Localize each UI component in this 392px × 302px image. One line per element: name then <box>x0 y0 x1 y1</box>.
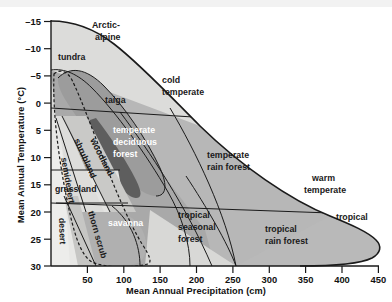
x-tick-label: 450 <box>371 274 387 285</box>
y-tick-label: –15 <box>25 16 41 27</box>
svg-text:Arctic-: Arctic- <box>92 20 120 30</box>
svg-text:temperate: temperate <box>162 87 204 97</box>
svg-text:warm: warm <box>311 173 335 183</box>
biome-plot-area: –15 –10 –5 0 5 10 15 20 25 30 50 100 150… <box>0 0 392 302</box>
biome-label-taiga: taiga <box>105 95 126 105</box>
x-tick-label: 250 <box>225 274 241 285</box>
y-axis-title: Mean Annual Temperature (°C) <box>16 55 26 255</box>
climate-zone-label-tropical: tropical <box>336 212 368 222</box>
svg-text:temperate: temperate <box>113 125 155 135</box>
whittaker-biome-diagram: –15 –10 –5 0 5 10 15 20 25 30 50 100 150… <box>0 0 392 302</box>
y-tick-label: 30 <box>31 261 41 272</box>
x-tick-label: 400 <box>334 274 350 285</box>
biome-label-tundra: tundra <box>58 52 85 62</box>
svg-text:alpine: alpine <box>95 32 121 42</box>
svg-text:deciduous: deciduous <box>113 137 157 147</box>
x-axis-title: Mean Annual Precipitation (cm) <box>0 286 392 296</box>
climate-zone-label-cold-temperate: cold temperate <box>162 75 204 97</box>
y-tick-label: 5 <box>36 125 41 136</box>
svg-text:rain forest: rain forest <box>207 162 250 172</box>
svg-text:rain forest: rain forest <box>265 236 308 246</box>
svg-text:temperate: temperate <box>207 150 249 160</box>
svg-text:forest: forest <box>178 234 203 244</box>
x-axis-tick-labels: 50 100 150 200 250 300 350 400 450 <box>82 274 386 285</box>
y-tick-label: 0 <box>36 98 41 109</box>
biome-label-savanna: savanna <box>108 218 143 228</box>
biome-label-desert: desert <box>57 218 68 245</box>
y-tick-label: –5 <box>31 70 41 81</box>
y-tick-label: 15 <box>31 179 41 190</box>
x-tick-label: 150 <box>152 274 168 285</box>
climate-zone-label-arctic-alpine: Arctic- alpine <box>92 20 121 42</box>
svg-text:cold: cold <box>162 75 180 85</box>
svg-text:tropical: tropical <box>178 210 210 220</box>
svg-text:forest: forest <box>113 149 138 159</box>
x-axis-ticks <box>87 266 378 273</box>
x-tick-label: 350 <box>298 274 314 285</box>
y-tick-label: –10 <box>25 43 41 54</box>
y-tick-label: 25 <box>31 234 41 245</box>
climate-zone-label-warm-temperate: warm temperate <box>304 173 346 195</box>
x-tick-label: 300 <box>261 274 277 285</box>
y-axis-tick-labels: –15 –10 –5 0 5 10 15 20 25 30 <box>25 16 41 272</box>
y-tick-label: 20 <box>31 207 41 218</box>
y-tick-label: 10 <box>31 152 41 163</box>
svg-text:seasonal: seasonal <box>178 222 216 232</box>
x-tick-label: 200 <box>189 274 205 285</box>
x-tick-label: 100 <box>116 274 132 285</box>
x-tick-label: 50 <box>82 274 92 285</box>
y-axis-ticks <box>44 22 51 267</box>
svg-text:tropical: tropical <box>265 224 297 234</box>
svg-text:temperate: temperate <box>304 185 346 195</box>
